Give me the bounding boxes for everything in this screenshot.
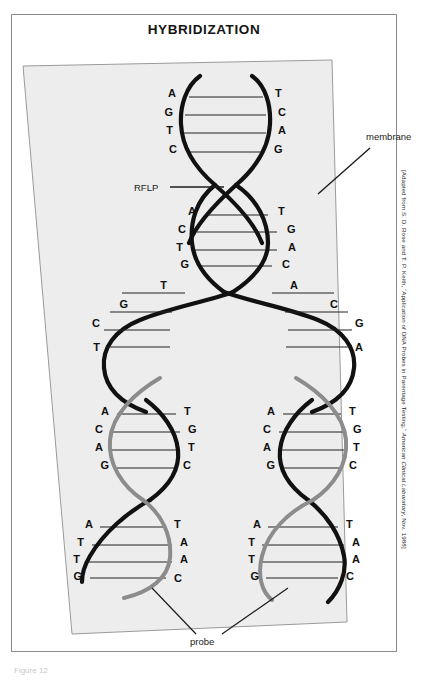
base-letter: A [101, 405, 109, 417]
credit-suffix: , Nov. 1988] [401, 515, 408, 549]
base-letter: T [77, 536, 84, 548]
base-letter: G [274, 143, 283, 155]
base-letter: C [92, 317, 100, 329]
base-letter: T [184, 405, 191, 417]
base-letter: C [183, 459, 191, 471]
base-letter: T [353, 441, 360, 453]
base-letter: C [169, 143, 177, 155]
base-letter: A [253, 518, 261, 530]
base-letter: G [73, 570, 82, 582]
base-letter: A [278, 124, 286, 136]
credit-journal: American Clinical Laboratory [401, 433, 408, 515]
base-letter: C [330, 298, 338, 310]
base-letter: C [95, 423, 103, 435]
base-letter: A [95, 441, 103, 453]
base-letter: A [188, 205, 196, 217]
base-letter: T [73, 553, 80, 565]
base-letter: C [278, 106, 286, 118]
base-letter: T [278, 205, 285, 217]
base-letter: A [290, 279, 298, 291]
base-letter: A [85, 518, 93, 530]
base-letter: T [248, 536, 255, 548]
base-letter: G [287, 223, 296, 235]
figure-caption: Figure 12 [14, 666, 48, 675]
membrane-label: membrane [366, 131, 411, 142]
base-letter: T [166, 124, 173, 136]
base-letter: G [188, 423, 197, 435]
base-letter: C [346, 570, 354, 582]
hybridization-figure: HYBRIDIZATION [0, 0, 432, 683]
base-letter: G [355, 317, 364, 329]
base-letter: A [352, 553, 360, 565]
base-letter: G [180, 258, 189, 270]
base-letter: G [100, 459, 109, 471]
dna-hybridization-diagram: membrane RFLP probe A G T C T C A G A C … [0, 0, 432, 683]
base-letter: A [263, 441, 271, 453]
probe-label: probe [190, 636, 214, 647]
base-letter: T [174, 518, 181, 530]
base-letter: A [352, 536, 360, 548]
base-letter: C [178, 223, 186, 235]
base-letter: G [119, 298, 128, 310]
credit-prefix: [Adapted from S. D. Rose and T. P. Keith… [401, 170, 408, 433]
base-letter: C [282, 258, 290, 270]
base-letter: A [168, 87, 176, 99]
base-letter: T [248, 553, 255, 565]
base-letter: A [267, 405, 275, 417]
rflp-label: RFLP [134, 182, 158, 193]
base-letter: T [93, 341, 100, 353]
base-letter: T [176, 241, 183, 253]
base-letter: G [266, 459, 275, 471]
source-credit: [Adapted from S. D. Rose and T. P. Keith… [401, 170, 408, 630]
base-letter: A [355, 341, 363, 353]
base-letter: T [346, 518, 353, 530]
base-letter: A [180, 536, 188, 548]
base-letter: T [160, 279, 167, 291]
base-letter: A [180, 553, 188, 565]
base-letter: C [174, 572, 182, 584]
base-letter: T [188, 441, 195, 453]
base-letter: A [288, 241, 296, 253]
base-letter: G [353, 423, 362, 435]
base-letter: G [250, 570, 259, 582]
base-letter: C [349, 459, 357, 471]
base-letter: T [275, 87, 282, 99]
base-letter: C [263, 423, 271, 435]
base-letter: T [349, 405, 356, 417]
base-letter: G [164, 106, 173, 118]
